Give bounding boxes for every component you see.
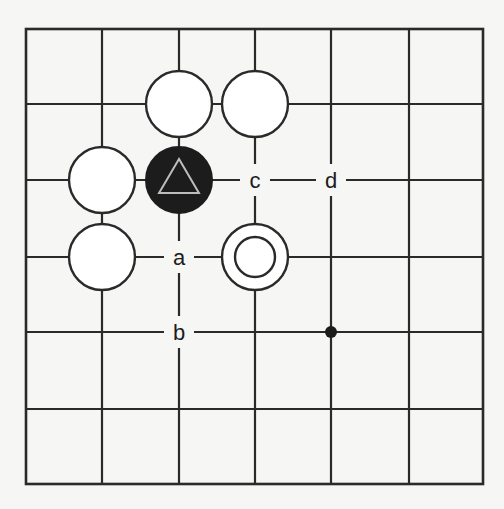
point-label-b: b	[173, 320, 185, 345]
white-stone	[146, 71, 212, 137]
point-label-d: d	[325, 168, 337, 193]
white-stone	[222, 71, 288, 137]
point-label-a: a	[173, 245, 186, 270]
hoshi-point	[325, 326, 337, 338]
stones-layer	[69, 71, 337, 338]
white-stone	[69, 224, 135, 290]
black-stone	[146, 147, 212, 213]
white-stone	[222, 224, 288, 290]
point-label-c: c	[250, 168, 261, 193]
white-stone	[69, 147, 135, 213]
go-board-diagram: cdab	[0, 0, 504, 509]
